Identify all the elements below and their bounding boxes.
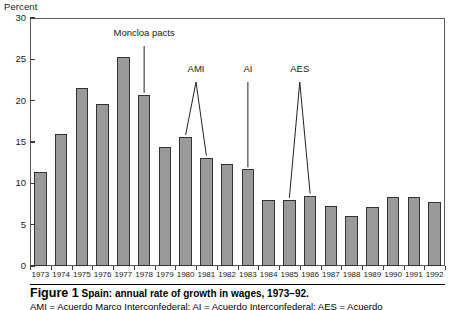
bar-1974 xyxy=(55,134,67,266)
x-tick-label-1989: 1989 xyxy=(361,270,383,279)
bar-1982 xyxy=(221,164,233,267)
x-tick-label-1974: 1974 xyxy=(50,270,72,279)
bar-1989 xyxy=(366,207,378,266)
x-tick-label-1978: 1978 xyxy=(133,270,155,279)
bar-1980 xyxy=(179,137,191,266)
y-tick-label: 5 xyxy=(4,219,26,230)
bar-1988 xyxy=(345,216,357,266)
annotation-label-aes: AES xyxy=(290,63,309,74)
bar-1977 xyxy=(117,57,129,266)
bar-1985 xyxy=(283,200,295,266)
x-tick-label-1991: 1991 xyxy=(403,270,425,279)
x-tick-label-1979: 1979 xyxy=(154,270,176,279)
y-tick-label: 15 xyxy=(4,136,26,147)
bar-1973 xyxy=(34,172,46,266)
bar-1992 xyxy=(428,202,440,266)
bar-1978 xyxy=(138,95,150,266)
x-tick-label-1992: 1992 xyxy=(424,270,446,279)
bar-1976 xyxy=(96,104,108,266)
figure-container: Percent 051015202530 1973197419751976197… xyxy=(0,0,451,310)
x-tick-label-1982: 1982 xyxy=(216,270,238,279)
y-tick-label: 20 xyxy=(4,95,26,106)
y-tick-label: 0 xyxy=(4,260,26,271)
bar-1979 xyxy=(159,147,171,266)
y-axis-title: Percent xyxy=(4,1,37,12)
x-tick-label-1980: 1980 xyxy=(175,270,197,279)
bar-1975 xyxy=(76,88,88,266)
x-tick-label-1987: 1987 xyxy=(320,270,342,279)
bar-1987 xyxy=(325,206,337,266)
x-tick-label-1990: 1990 xyxy=(382,270,404,279)
bar-1984 xyxy=(262,200,274,266)
y-tick-label: 30 xyxy=(4,12,26,23)
figure-caption: Figure 1 Spain: annual rate of growth in… xyxy=(30,287,450,301)
bars-layer xyxy=(30,18,445,266)
bar-1983 xyxy=(242,169,254,266)
x-tick-label-1983: 1983 xyxy=(237,270,259,279)
y-tick-label: 10 xyxy=(4,177,26,188)
x-tick-label-1973: 1973 xyxy=(29,270,51,279)
bar-1981 xyxy=(200,158,212,266)
x-tick-label-1975: 1975 xyxy=(71,270,93,279)
x-tick-label-1977: 1977 xyxy=(112,270,134,279)
x-tick-label-1976: 1976 xyxy=(92,270,114,279)
x-tick-label-1988: 1988 xyxy=(341,270,363,279)
annotation-label-ami: AMI xyxy=(188,63,205,74)
x-tick-label-1984: 1984 xyxy=(258,270,280,279)
figure-number: Figure 1 xyxy=(30,286,79,300)
x-tick-label-1981: 1981 xyxy=(195,270,217,279)
bar-1991 xyxy=(408,197,420,266)
annotation-label-moncloa-pacts: Moncloa pacts xyxy=(113,27,174,38)
x-tick-label-1985: 1985 xyxy=(278,270,300,279)
figure-title: Spain: annual rate of growth in wages, 1… xyxy=(82,288,309,299)
y-tick-label: 25 xyxy=(4,53,26,64)
caption-divider xyxy=(30,284,445,285)
x-tick-label-1986: 1986 xyxy=(299,270,321,279)
bar-1990 xyxy=(387,197,399,266)
bar-1986 xyxy=(304,196,316,266)
annotation-label-ai: AI xyxy=(243,63,252,74)
figure-note: AMI = Acuerdo Marco Interconfederal; AI … xyxy=(30,301,450,310)
